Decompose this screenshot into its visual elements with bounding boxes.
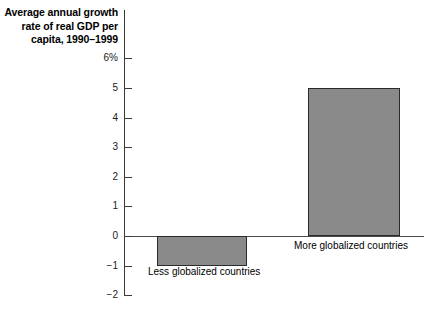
- chart-title-line-1: Average annual growth: [4, 6, 118, 20]
- y-tick-label: 5: [82, 83, 118, 93]
- y-tick-mark: [125, 236, 132, 237]
- bar-more-globalized: [308, 88, 400, 236]
- y-axis-line: [124, 10, 125, 296]
- y-tick-label: −1: [82, 261, 118, 271]
- y-tick-mark: [125, 58, 132, 59]
- y-tick-label: 2: [82, 172, 118, 182]
- y-tick-mark: [125, 206, 132, 207]
- y-tick-label: 6%: [82, 53, 118, 63]
- y-tick-mark: [125, 266, 132, 267]
- category-label-more-globalized: More globalized countries: [294, 240, 408, 251]
- y-tick-label: 1: [82, 201, 118, 211]
- y-tick-mark: [125, 177, 132, 178]
- bar-less-globalized: [157, 236, 247, 266]
- y-tick-label: 4: [82, 113, 118, 123]
- y-tick-label: −2: [82, 290, 118, 300]
- chart-title-line-2: rate of real GDP per: [4, 20, 118, 34]
- chart-title-line-3: capita, 1990–1999: [4, 33, 118, 47]
- category-label-less-globalized: Less globalized countries: [148, 266, 260, 277]
- chart-figure: Average annual growth rate of real GDP p…: [0, 0, 432, 319]
- y-tick-mark: [125, 147, 132, 148]
- y-tick-mark: [125, 88, 132, 89]
- y-tick-mark: [125, 295, 132, 296]
- y-tick-mark: [125, 118, 132, 119]
- chart-title: Average annual growth rate of real GDP p…: [4, 6, 118, 47]
- y-tick-label: 0: [82, 231, 118, 241]
- y-tick-label: 3: [82, 142, 118, 152]
